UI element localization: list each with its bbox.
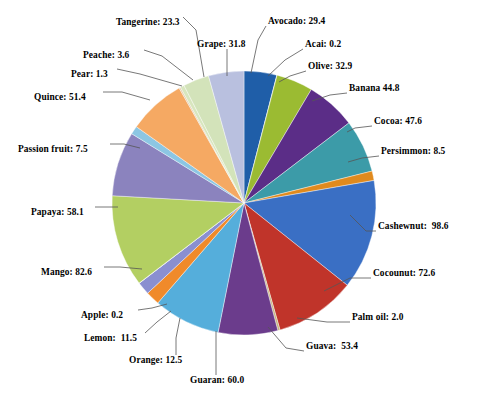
- slice-label-grape: Grape: 31.8: [197, 40, 246, 49]
- leader-line-quince: [103, 92, 150, 100]
- leader-line-orange: [176, 318, 180, 355]
- leader-line-lemon: [145, 311, 171, 333]
- leader-line-acai: [268, 49, 303, 76]
- slice-label-cashewnut: Cashewnut: 98.6: [378, 222, 449, 231]
- leader-line-pear: [117, 69, 182, 86]
- pie-chart-svg: [0, 0, 479, 401]
- slice-label-quince: Quince: 51.4: [34, 93, 86, 102]
- slice-label-orange: Orange: 12.5: [129, 356, 182, 365]
- slice-label-palm-oil: Palm oil: 2.0: [352, 313, 404, 322]
- leader-line-avocado: [251, 26, 266, 73]
- slice-label-peache: Peache: 3.6: [83, 51, 129, 60]
- slice-label-banana: Banana 44.8: [349, 84, 400, 93]
- slice-label-persimmon: Persimmon: 8.5: [381, 147, 445, 156]
- pie-slices-group: [112, 71, 376, 335]
- slice-label-apple: Apple: 0.2: [81, 311, 123, 320]
- slice-label-cocoa: Cocoa: 47.6: [374, 117, 422, 126]
- slice-label-passion-fruit: Passion fruit: 7.5: [18, 145, 88, 154]
- slice-label-tangerine: Tangerine: 23.3: [116, 18, 180, 27]
- slice-label-cocounut: Cocounut: 72.6: [373, 269, 435, 278]
- slice-label-mango: Mango: 82.6: [41, 268, 92, 277]
- slice-label-olive: Olive: 32.9: [308, 62, 352, 71]
- slice-label-pear: Pear: 1.3: [71, 70, 108, 79]
- slice-label-avocado: Avocado: 29.4: [268, 17, 325, 26]
- slice-label-guaran: Guaran: 60.0: [190, 376, 244, 385]
- slice-label-guava: Guava: 53.4: [306, 342, 358, 351]
- slice-label-lemon: Lemon: 11.5: [84, 334, 137, 343]
- slice-label-acai: Acai: 0.2: [305, 40, 341, 49]
- slice-label-papaya: Papaya: 58.1: [31, 208, 84, 217]
- leader-line-peache: [144, 50, 193, 80]
- pie-chart-figure: Avocado: 29.4Acai: 0.2Olive: 32.9Banana …: [0, 0, 479, 401]
